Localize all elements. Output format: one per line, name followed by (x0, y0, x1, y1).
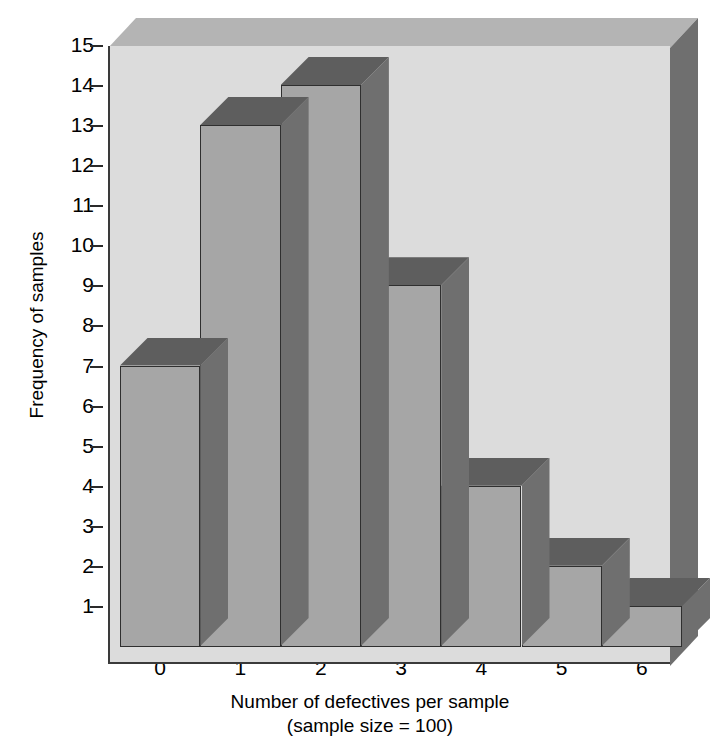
bar-side-face (200, 338, 228, 646)
x-axis-label-note: (sample size = 100) (110, 714, 630, 738)
chart-figure: Frequency of samples 1234567891011121314… (0, 0, 725, 751)
x-axis-caption: Number of defectives per sample (sample … (110, 690, 630, 738)
bar-front-face (120, 366, 200, 647)
plot-area (108, 18, 698, 666)
x-axis-label: Number of defectives per sample (110, 690, 630, 714)
bar (108, 18, 698, 666)
bar-series (108, 18, 698, 666)
